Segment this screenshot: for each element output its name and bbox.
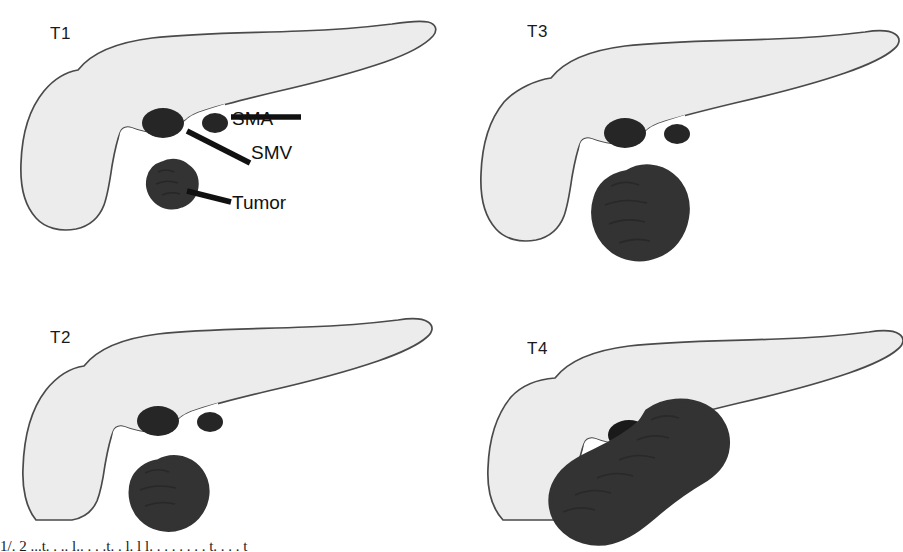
t3-illustration	[451, 0, 903, 280]
tumor-mass-t3	[593, 166, 688, 259]
sma-vessel-t3	[664, 124, 690, 144]
tumor-mass-t1	[147, 160, 197, 208]
panel-t4: T4	[451, 280, 903, 520]
smv-vessel-t1	[142, 108, 184, 138]
tumor-mass-t2	[130, 457, 208, 530]
sma-vessel-t2	[197, 412, 223, 432]
panel-t3: T3	[451, 0, 903, 280]
smv-vessel-t2	[137, 406, 179, 436]
panel-t2: T2	[0, 280, 452, 520]
sma-vessel-t1	[202, 113, 228, 133]
smv-vessel-t3	[604, 118, 646, 148]
smv-leader-line	[187, 131, 250, 163]
figure-caption: 1/. 2 ...t. . .. l.. . . .t. . l. l l. .…	[0, 538, 903, 552]
pancreas-outline-t3	[481, 31, 899, 241]
panel-label-t4: T4	[527, 339, 548, 359]
callout-label-tumor: Tumor	[232, 192, 286, 214]
panel-label-t1: T1	[50, 24, 71, 44]
callout-label-sma: SMA	[232, 108, 273, 130]
panel-label-t3: T3	[527, 22, 548, 42]
callout-label-smv: SMV	[251, 142, 292, 164]
t4-illustration	[451, 280, 903, 520]
pancreas-outline-t2	[23, 319, 432, 520]
panel-t1: T1 SMA SMV Tumor	[0, 0, 452, 280]
panel-label-t2: T2	[50, 328, 71, 348]
t2-illustration	[0, 280, 452, 520]
